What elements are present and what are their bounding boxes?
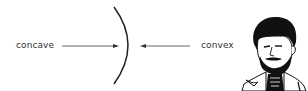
- concave-arrow: [62, 44, 119, 48]
- bearded-man-portrait-icon: [240, 14, 308, 91]
- convex-arrow: [140, 44, 190, 48]
